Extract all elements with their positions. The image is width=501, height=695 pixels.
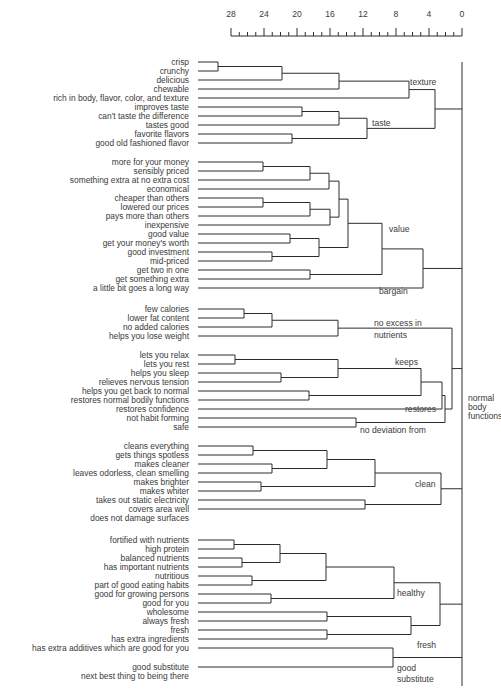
cluster-label: no excess in <box>374 318 422 328</box>
cluster-label: functions <box>468 411 501 421</box>
axis-tick-label: 8 <box>394 9 399 19</box>
cluster-label: nutrients <box>374 330 407 340</box>
leaf-label: does not damage surfaces <box>90 513 189 523</box>
axis-tick-label: 24 <box>259 9 269 19</box>
axis-tick-label: 16 <box>325 9 335 19</box>
leaf-labels: crispcrunchydeliciouschewablerich in bod… <box>32 57 190 681</box>
leaf-label: helps you lose weight <box>109 331 190 341</box>
cluster-label: value <box>389 224 410 234</box>
dendrogram-figure: 2824201612840 crispcrunchydeliciouschewa… <box>0 0 501 695</box>
cluster-label: good <box>397 663 416 673</box>
axis-tick-label: 0 <box>460 9 465 19</box>
cluster-label: restores <box>405 404 436 414</box>
axis-tick-label: 20 <box>292 9 302 19</box>
cluster-label: substitute <box>397 674 434 684</box>
cluster-labels: texturetastevaluebargainno excess innutr… <box>360 77 501 684</box>
cluster-label: no deviation from <box>360 425 426 435</box>
axis-tick-label: 12 <box>358 9 368 19</box>
leaf-label: safe <box>173 422 189 432</box>
cluster-label: keeps <box>395 357 418 367</box>
axis-tick-label: 28 <box>226 9 236 19</box>
axis-tick-label: 4 <box>427 9 432 19</box>
cluster-label: healthy <box>397 588 425 598</box>
distance-axis: 2824201612840 <box>226 9 464 36</box>
cluster-label: clean <box>415 479 436 489</box>
cluster-label: texture <box>410 77 436 87</box>
cluster-label: fresh <box>417 640 436 650</box>
leaf-label: a little bit goes a long way <box>93 283 190 293</box>
cluster-label: bargain <box>379 286 408 296</box>
leaf-label: has extra additives which are good for y… <box>32 643 189 653</box>
leaf-label: good old fashioned flavor <box>95 138 189 148</box>
cluster-label: taste <box>372 118 391 128</box>
leaf-label: next best thing to being there <box>81 671 189 681</box>
